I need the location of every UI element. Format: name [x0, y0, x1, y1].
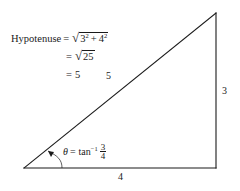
fraction-denominator: 4: [100, 151, 107, 160]
radical-sign-icon-2: √: [75, 50, 82, 63]
hypotenuse-formula: Hypotenuse = √ 32+42 = √ 25 = 5: [11, 29, 108, 80]
hypotenuse-word: Hypotenuse: [11, 33, 61, 44]
tan-function-label: tan: [79, 146, 91, 157]
radical-expression-1: √ 32+42: [72, 31, 108, 44]
formula-line-3: = 5: [11, 65, 108, 80]
formula-line-1: Hypotenuse = √ 32+42: [11, 29, 108, 44]
triangle-figure: Hypotenuse = √ 32+42 = √ 25 = 5 θ = tan−…: [0, 0, 240, 191]
equals-sign-2: =: [64, 51, 75, 62]
hypotenuse-result: 5: [75, 69, 80, 80]
equals-sign-1: =: [61, 33, 72, 44]
side-label-adjacent: 4: [118, 172, 123, 182]
formula-line-2: = √ 25: [11, 47, 108, 62]
side-label-hypotenuse: 5: [106, 71, 111, 81]
exponent-2-second: 2: [104, 32, 107, 39]
inverse-exponent: −1: [91, 145, 98, 152]
fraction-3-over-4: 3 4: [100, 143, 107, 160]
angle-equals-sign: =: [68, 146, 79, 157]
radical-sign-icon: √: [72, 32, 79, 45]
radicand-25: 25: [82, 50, 95, 62]
angle-annotation: θ = tan−1 3 4: [63, 143, 106, 160]
arctangent-term: tan−1: [79, 146, 98, 157]
side-label-opposite: 3: [222, 86, 227, 96]
radical-expression-2: √ 25: [75, 49, 95, 62]
fraction-numerator: 3: [100, 143, 107, 151]
plus-sign: +: [89, 33, 99, 44]
radicand-1: 32+42: [79, 32, 108, 44]
equals-sign-3: =: [64, 69, 75, 80]
